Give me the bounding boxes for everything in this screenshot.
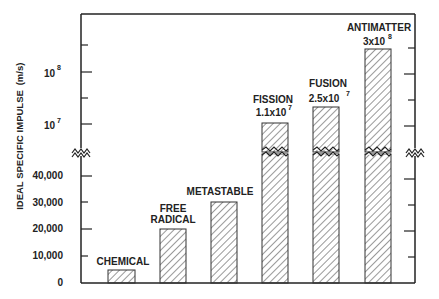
y-axis-label: IDEAL SPECIFIC IMPULSE (m/s)	[14, 63, 25, 210]
label-fission-value: 1.1x10	[256, 107, 287, 118]
label-fusion: FUSION	[309, 78, 347, 89]
svg-text:40,000: 40,000	[32, 170, 63, 181]
bar-fission-lower	[262, 154, 288, 283]
label-antimatter-value: 3x10	[363, 36, 386, 47]
bar-fusion-upper	[313, 107, 339, 152]
label-free: FREE	[160, 203, 187, 214]
bar-free-radical	[160, 229, 186, 283]
label-radical: RADICAL	[151, 214, 196, 225]
svg-text:7: 7	[346, 90, 350, 97]
bar-chemical	[108, 270, 135, 283]
impulse-chart: 0 10,000 20,000 30,000 40,000 10 7 10 8 …	[0, 0, 439, 299]
bar-antimatter-upper	[365, 49, 391, 152]
svg-text:10,000: 10,000	[32, 250, 63, 261]
y-log-labels: 10 7 10 8	[44, 64, 61, 131]
svg-text:10: 10	[44, 68, 56, 79]
bar-fusion-lower	[313, 154, 339, 283]
bar-antimatter-lower	[365, 154, 391, 283]
svg-text:IDEAL SPECIFIC IMPULSE: IDEAL SPECIFIC IMPULSE	[14, 90, 25, 210]
svg-text:0: 0	[57, 277, 63, 288]
svg-text:10: 10	[44, 120, 56, 131]
label-fission: FISSION	[253, 94, 293, 105]
y-tick-labels: 0 10,000 20,000 30,000 40,000	[32, 170, 63, 288]
label-antimatter: ANTIMATTER	[347, 22, 412, 33]
bar-metastable	[211, 202, 237, 283]
svg-text:8: 8	[57, 64, 61, 71]
svg-text:20,000: 20,000	[32, 223, 63, 234]
svg-text:7: 7	[288, 104, 292, 111]
label-metastable: METASTABLE	[187, 186, 254, 197]
svg-text:7: 7	[57, 117, 61, 124]
svg-text:(m/s): (m/s)	[14, 63, 25, 86]
label-fusion-value: 2.5x10	[309, 93, 340, 104]
svg-text:30,000: 30,000	[32, 197, 63, 208]
label-chemical: CHEMICAL	[97, 256, 150, 267]
svg-text:8: 8	[388, 33, 392, 40]
bars	[108, 49, 391, 283]
